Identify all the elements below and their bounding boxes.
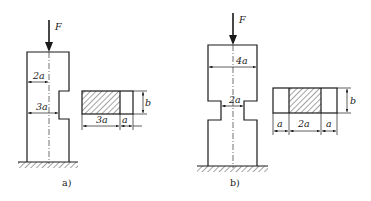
force-arrow-b: F [229,13,246,45]
column-b-outline [208,45,257,166]
svg-text:a: a [122,114,128,125]
caption-b: b) [230,177,240,188]
force-arrow-a: F [45,20,62,52]
svg-text:2a: 2a [228,94,241,105]
cross-section-b: a 2a a b [273,88,356,135]
svg-text:a: a [277,118,283,129]
svg-text:a: a [326,118,332,129]
ground-a [18,162,78,168]
svg-text:2a: 2a [297,118,310,129]
figure-a: F 2a 3a 3a a [18,20,151,188]
svg-text:4a: 4a [235,55,248,66]
column-a-outline [27,52,69,162]
force-label-b: F [238,14,246,25]
cross-section-a: 3a a b [82,91,151,130]
svg-text:3a: 3a [96,114,108,125]
dimension-2a-b: 2a [222,94,243,106]
svg-text:3a: 3a [36,101,48,112]
diagram-canvas: F 2a 3a 3a a [0,0,371,201]
figure-b: F 4a 2a a 2a [197,13,356,188]
force-label-a: F [54,21,62,32]
dimension-4a-b: 4a [209,55,256,67]
dimension-2a-a: 2a [28,70,48,82]
caption-a: a) [62,177,71,188]
dimension-3a-a: 3a [28,101,58,113]
svg-text:b: b [145,97,151,108]
hatched-area-a [82,91,120,114]
svg-text:2a: 2a [32,70,45,81]
hatched-area-b [289,88,321,113]
ground-b [197,166,268,172]
svg-text:b: b [350,95,356,106]
